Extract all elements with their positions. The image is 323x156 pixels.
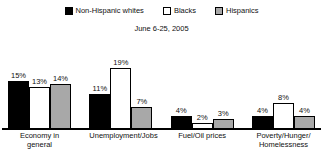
bar-group: 15%13%14% (8, 38, 71, 129)
category-label: Poverty/Hunger/ Homelessness (252, 131, 315, 149)
bar-value-label: 8% (278, 93, 289, 102)
bar-item: 11% (89, 38, 110, 129)
bar-value-label: 19% (113, 58, 128, 67)
bar-value-label: 14% (53, 74, 68, 83)
x-axis-line (2, 128, 321, 130)
bar-chart: Non-Hispanic whites Blacks Hispanics Jun… (0, 0, 323, 156)
legend-swatch-icon-blacks (163, 7, 171, 15)
bar-item: 2% (192, 38, 213, 129)
bar-item: 4% (294, 38, 315, 129)
bar-value-label: 11% (93, 84, 107, 93)
bar (110, 68, 131, 129)
bar-value-label: 2% (197, 113, 208, 122)
bar-value-label: 15% (11, 71, 26, 80)
category-label: Economy in general (8, 131, 71, 149)
legend-item-non-hispanic-whites: Non-Hispanic whites (65, 6, 144, 15)
plot-area: 15%13%14%11%19%7%4%2%3%4%8%4% (0, 38, 323, 129)
bar-value-label: 13% (32, 77, 47, 86)
legend-label-blacks: Blacks (174, 6, 196, 15)
chart-legend: Non-Hispanic whites Blacks Hispanics (0, 6, 323, 15)
bar-item: 14% (50, 38, 71, 129)
legend-swatch-icon-non-hispanic-whites (65, 7, 73, 15)
legend-swatch-icon-hispanics (215, 7, 223, 15)
bar (89, 94, 110, 129)
bar-value-label: 7% (136, 97, 147, 106)
legend-item-blacks: Blacks (163, 6, 196, 15)
category-labels: Economy in generalUnemployment/JobsFuel/… (8, 131, 315, 149)
bar-item: 13% (29, 38, 50, 129)
bar (131, 107, 152, 129)
legend-label-non-hispanic-whites: Non-Hispanic whites (76, 6, 144, 15)
bar-value-label: 3% (218, 109, 229, 118)
bar-item: 4% (252, 38, 273, 129)
bar (8, 81, 29, 129)
bar (50, 84, 71, 129)
bar-groups: 15%13%14%11%19%7%4%2%3%4%8%4% (8, 38, 315, 129)
bar-group: 4%2%3% (171, 38, 234, 129)
bar-value-label: 4% (299, 106, 310, 115)
category-label: Unemployment/Jobs (89, 131, 152, 140)
bar-item: 19% (110, 38, 131, 129)
legend-item-hispanics: Hispanics (215, 6, 259, 15)
bar-item: 4% (171, 38, 192, 129)
bar (273, 103, 294, 129)
bar-value-label: 4% (257, 106, 268, 115)
legend-label-hispanics: Hispanics (226, 6, 259, 15)
bar-value-label: 4% (176, 106, 187, 115)
bar-item: 8% (273, 38, 294, 129)
bar-item: 3% (213, 38, 234, 129)
chart-subtitle: June 6-25, 2005 (0, 24, 323, 34)
bar-item: 15% (8, 38, 29, 129)
bar (29, 87, 50, 129)
category-label: Fuel/Oil prices (171, 131, 234, 140)
bar-item: 7% (131, 38, 152, 129)
bar-group: 11%19%7% (89, 38, 152, 129)
bar-group: 4%8%4% (252, 38, 315, 129)
